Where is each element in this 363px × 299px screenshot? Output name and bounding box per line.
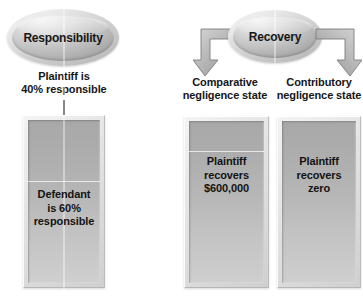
box-contributory-face: Plaintiff recovers zero: [282, 121, 356, 283]
box-contributory-label-line3: zero: [282, 182, 356, 196]
caption-comparative-line2: negligence state: [182, 89, 268, 102]
oval-responsibility-label: Responsibility: [23, 31, 102, 45]
oval-responsibility-face: Responsibility: [12, 14, 114, 61]
oval-recovery-label: Recovery: [249, 30, 301, 44]
box-contributory-label-line1: Plaintiff: [282, 155, 356, 169]
caption-plaintiff-responsibility-line1: Plaintiff is: [12, 70, 116, 83]
box-defendant-label-line1: Defendant: [28, 188, 100, 202]
box-defendant-face: Defendant is 60% responsible: [28, 120, 100, 283]
caption-contributory-line1: Contributory: [276, 76, 362, 89]
box-comparative-face: Plaintiff recovers $600,000: [189, 121, 264, 283]
caption-comparative-line1: Comparative: [182, 76, 268, 89]
box-defendant-responsibility: Defendant is 60% responsible: [23, 115, 105, 288]
caption-comparative-negligence-state: Comparative negligence state: [182, 76, 268, 102]
oval-recovery-face: Recovery: [233, 15, 317, 58]
box-defendant-label-line2: is 60%: [28, 202, 100, 216]
box-comparative-divider: [189, 151, 264, 152]
box-comparative-label: Plaintiff recovers $600,000: [189, 155, 264, 196]
caption-contributory-negligence-state: Contributory negligence state: [276, 76, 362, 102]
box-defendant-divider: [28, 181, 100, 182]
box-comparative-label-line1: Plaintiff: [189, 155, 264, 169]
box-contributory-label: Plaintiff recovers zero: [282, 155, 356, 196]
box-contributory-label-line2: recovers: [282, 169, 356, 183]
oval-responsibility: Responsibility: [7, 9, 119, 66]
caption-plaintiff-responsibility-line2: 40% responsible: [12, 83, 116, 96]
elbow-arrow-down-right-icon: [314, 27, 362, 79]
caption-plaintiff-responsibility: Plaintiff is 40% responsible: [12, 70, 116, 96]
caption-contributory-line2: negligence state: [276, 89, 362, 102]
box-comparative-label-line3: $600,000: [189, 182, 264, 196]
box-comparative-label-line2: recovers: [189, 169, 264, 183]
diagram-canvas: Responsibility Plaintiff is 40% responsi…: [0, 0, 363, 299]
box-defendant-label-line3: responsible: [28, 215, 100, 229]
box-contributory-recovery: Plaintiff recovers zero: [277, 116, 361, 288]
box-comparative-recovery: Plaintiff recovers $600,000: [184, 116, 269, 288]
oval-recovery: Recovery: [228, 10, 322, 63]
box-defendant-label: Defendant is 60% responsible: [28, 188, 100, 229]
